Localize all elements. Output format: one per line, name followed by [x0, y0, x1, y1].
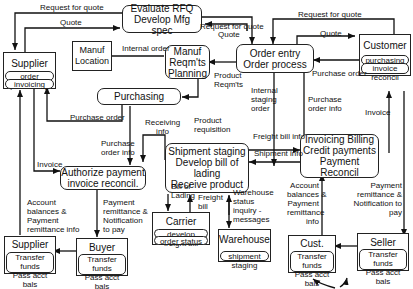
entity-manuf-location[interactable]: Manuf Location [72, 41, 112, 71]
supplier-bank-sub-line1: Transfer funds [7, 253, 53, 271]
receiving-info-line1: Receiving [145, 118, 180, 127]
process-invoicing-line2: Credit payments [303, 145, 376, 156]
process-authorize-line1: Authorize payment [61, 167, 144, 178]
process-invoicing-billing[interactable]: Invoicing Billing Credit payments Paymen… [300, 134, 379, 178]
product-reqmts-line1: Product [214, 71, 243, 80]
freight-bill-line2: bill [198, 202, 223, 211]
pay-rem-left-line2: remittance & [103, 207, 148, 216]
entity-carrier-title: Carrier [153, 216, 209, 228]
entity-seller-bank[interactable]: Seller bank Transfer funds Pass acct bal… [357, 233, 409, 271]
freight-bill-line1: Freight [198, 193, 223, 202]
product-requisition-line2: requisition [194, 125, 230, 134]
flow-label-quote-supplier: Quote [60, 18, 82, 27]
flow-label-purchase-order-info-right: Purchase order info [308, 95, 342, 113]
entity-manuf-location-line2: Location [75, 56, 109, 67]
seller-bank-sub-line2: Pass acct bals [360, 268, 406, 286]
entity-buyer-bank-sub: Transfer funds Pass acct bals [78, 254, 126, 275]
flow-label-purchase-order-customer: Purchase order [312, 69, 367, 78]
buyer-bank-sub-line2: Pass acct bals [79, 273, 125, 289]
internal-staging-line3: order [251, 104, 278, 113]
buyer-bank-sub-line1: Transfer funds [79, 255, 125, 273]
process-authorize-line2: invoice reconcil. [67, 178, 138, 189]
flow-label-account-balances-right: Account balances & Payment remittance in… [287, 181, 319, 226]
pay-rem-right-line3: Notification to [350, 199, 402, 208]
acct-bal-left-line1: Account [27, 198, 79, 207]
flow-label-invoice-supplier: Invoice [37, 160, 62, 169]
pay-rem-right-line2: remittance & [350, 190, 402, 199]
entity-supplier-title: Supplier [4, 58, 55, 70]
flow-label-payment-remittance-left: Payment remittance & Notification to pay [103, 198, 148, 234]
acct-bal-right-line1: Account [287, 181, 319, 190]
flow-label-product-requisition: Product requisition [194, 116, 230, 134]
warehouse-status-line4: messages [233, 215, 274, 224]
cust-bank-sub-line1: Transfer funds [291, 252, 333, 270]
receiving-info-line2: info [145, 127, 180, 136]
process-manuf-reqmts-planning[interactable]: Manuf Reqm'ts Planning [165, 45, 210, 79]
po-info-left-line2: order info [101, 148, 135, 157]
process-purchasing[interactable]: Purchasing [97, 88, 181, 105]
flow-label-account-balances-left: Account balances & Payment remittance in… [27, 198, 79, 234]
process-evaluate-rfq[interactable]: Evaluate RFQ Develop Mfg spec [122, 5, 202, 33]
process-manuf-line3: Planning [168, 68, 207, 79]
flow-label-rfq-supplier: Request for quote [40, 3, 104, 12]
entity-supplier[interactable]: Supplier order processing invoicing [3, 52, 56, 89]
flow-label-warehouse-status: Warehouse status inquiry - messages [233, 188, 274, 224]
entity-customer-sub2: invoice reconcil [361, 63, 409, 74]
flow-label-bill-of-lading: Bill of Lading [171, 182, 195, 200]
seller-bank-sub-line1: Transfer funds [360, 250, 406, 268]
flow-label-freight-bill: Freight bill [198, 193, 223, 211]
flow-label-quote-mid: Quote [218, 30, 240, 39]
process-order-entry-line1: Order entry [250, 48, 301, 59]
process-shipment-line1: Shipment staging [168, 146, 245, 157]
flow-label-invoice-customer: Invoice [365, 108, 390, 117]
entity-seller-bank-sub: Transfer funds Pass acct bals [359, 249, 407, 270]
entity-carrier[interactable]: Carrier develop freight bill order statu… [152, 212, 210, 245]
entity-supplier-sub2: invoicing [5, 79, 54, 89]
process-shipment-line2: Develop bill of lading [166, 157, 248, 179]
process-invoicing-line1: Invoicing Billing [305, 134, 374, 145]
flow-label-purchase-order-info-left: Purchase order info [101, 139, 135, 157]
warehouse-status-line1: Warehouse [233, 188, 274, 197]
entity-cust-bank[interactable]: Cust. bank Transfer funds Pass acct bals [288, 235, 336, 273]
process-order-entry[interactable]: Order entry Order process [236, 44, 314, 73]
process-authorize-payment[interactable]: Authorize payment invoice reconcil. [60, 166, 146, 190]
process-manuf-line1: Manuf [174, 46, 202, 57]
acct-bal-left-line3: Payment [27, 216, 79, 225]
flow-label-shipment-info: Shipment info [254, 149, 303, 158]
warehouse-status-line2: status [233, 197, 274, 206]
bill-of-lading-line1: Bill of [171, 182, 195, 191]
pay-rem-left-line4: to pay [103, 225, 148, 234]
entity-supplier-bank-sub: Transfer funds Pass acct bals [6, 252, 54, 273]
po-info-right-line2: order info [308, 104, 342, 113]
flow-label-product-reqmts: Product Reqm'ts [214, 71, 243, 89]
entity-customer-title: Customer [360, 40, 410, 52]
po-info-right-line1: Purchase [308, 95, 342, 104]
cust-bank-sub-line2: Pass acct bals [291, 270, 333, 288]
flow-label-internal-order: Internal order [122, 44, 170, 53]
entity-warehouse-sub1: shipment staging [220, 251, 269, 261]
flow-label-receiving-info: Receiving info [145, 118, 180, 136]
entity-manuf-location-line1: Manuf [79, 45, 104, 56]
entity-carrier-sub2: order status [154, 236, 208, 245]
entity-buyer-bank[interactable]: Buyer bank Transfer funds Pass acct bals [76, 238, 128, 276]
pay-rem-left-line1: Payment [103, 198, 148, 207]
process-order-entry-line2: Order process [243, 59, 306, 70]
internal-staging-line1: Internal [251, 86, 278, 95]
process-manuf-line2: Reqm'ts [169, 57, 205, 68]
process-invoicing-line3: Payment Reconcil [301, 156, 378, 178]
flow-label-internal-staging-order: Internal staging order [251, 86, 278, 113]
acct-bal-right-line4: remittance [287, 208, 319, 217]
process-evaluate-rfq-line1: Evaluate RFQ [131, 3, 194, 14]
po-info-left-line1: Purchase [101, 139, 135, 148]
process-evaluate-rfq-line2: Develop Mfg spec [123, 14, 201, 36]
acct-bal-right-line3: Payment [287, 199, 319, 208]
pay-rem-right-line4: pay [350, 208, 402, 217]
flow-label-freight-bill-info: Freight bill info [253, 132, 305, 141]
entity-cust-bank-sub: Transfer funds Pass acct bals [290, 251, 334, 272]
supplier-bank-sub-line2: Pass acct bals [7, 271, 53, 289]
pay-rem-left-line3: Notification [103, 216, 148, 225]
acct-bal-right-line2: balances & [287, 190, 319, 199]
entity-supplier-bank[interactable]: Supplier bank Transfer funds Pass acct b… [4, 236, 56, 274]
entity-warehouse[interactable]: Warehouse shipment staging [218, 229, 271, 262]
acct-bal-left-line4: remittance info [27, 225, 79, 234]
